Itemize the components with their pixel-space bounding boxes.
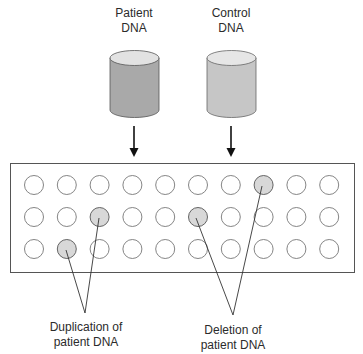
spot <box>90 176 109 195</box>
spot-duplication <box>57 240 76 259</box>
spot <box>25 208 44 227</box>
spot <box>254 240 273 259</box>
spot <box>156 176 175 195</box>
duplication-label: Duplication of patient DNA <box>30 320 142 350</box>
patient-dna-cylinder-icon <box>110 51 159 118</box>
spot <box>25 240 44 259</box>
control-dna-cylinder-icon <box>207 51 256 118</box>
spot <box>221 240 240 259</box>
spot <box>57 208 76 227</box>
deletion-label-line1: Deletion of <box>180 323 286 338</box>
spot <box>287 208 306 227</box>
duplication-label-line1: Duplication of <box>30 320 142 335</box>
spot <box>221 176 240 195</box>
spot <box>189 176 208 195</box>
deletion-label-line2: patient DNA <box>180 338 286 353</box>
deletion-label: Deletion of patient DNA <box>180 323 286 353</box>
spot-duplication <box>90 208 109 227</box>
spot <box>90 240 109 259</box>
spot-deletion <box>254 176 273 195</box>
control-arrow-icon <box>227 126 236 157</box>
spot <box>320 176 339 195</box>
spot <box>123 176 142 195</box>
microarray-diagram <box>0 0 363 354</box>
duplication-label-line2: patient DNA <box>30 335 142 350</box>
spot <box>156 208 175 227</box>
spot <box>189 240 208 259</box>
spot <box>221 208 240 227</box>
spot <box>287 176 306 195</box>
patient-arrow-icon <box>130 126 139 157</box>
spot <box>123 208 142 227</box>
spot <box>123 240 142 259</box>
spot <box>156 240 175 259</box>
spot <box>320 208 339 227</box>
spot <box>320 240 339 259</box>
spot <box>287 240 306 259</box>
spot <box>25 176 44 195</box>
spot <box>57 176 76 195</box>
